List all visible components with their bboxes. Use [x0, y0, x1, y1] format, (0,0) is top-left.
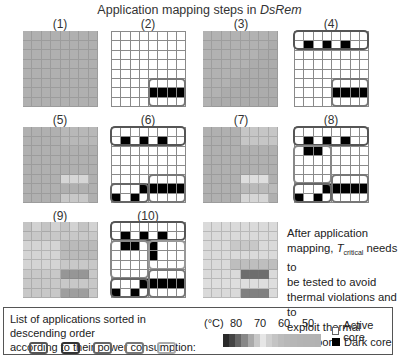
active-core — [149, 60, 158, 69]
thermal-grid — [203, 31, 278, 107]
thermal-cell — [259, 279, 268, 289]
thermal-cell — [212, 60, 221, 70]
active-core — [341, 70, 350, 79]
active-core — [295, 147, 304, 156]
thermal-cell — [70, 156, 79, 166]
thermal-cell — [42, 137, 51, 147]
active-core — [149, 223, 158, 232]
active-core — [158, 70, 167, 79]
thermal-cell — [32, 79, 41, 89]
dark-core — [351, 184, 360, 193]
active-core — [323, 175, 332, 184]
thermal-cell — [250, 127, 259, 137]
thermal-cell — [70, 165, 79, 175]
dark-core — [149, 279, 158, 288]
thermal-cell — [32, 251, 41, 261]
thermal-cell — [269, 175, 278, 185]
thermal-cell — [241, 88, 250, 98]
tick-50: 50 — [302, 317, 326, 329]
active-core — [341, 79, 350, 88]
thermal-cell — [231, 279, 240, 289]
active-core — [158, 60, 167, 69]
core-grid — [111, 222, 186, 298]
active-core — [149, 41, 158, 50]
active-core — [112, 242, 121, 251]
thermal-cell — [203, 251, 212, 261]
active-core — [304, 175, 313, 184]
active-core — [149, 175, 158, 184]
thermal-cell — [70, 137, 79, 147]
active-core — [158, 32, 167, 41]
active-core — [323, 128, 332, 137]
active-core — [314, 166, 323, 175]
active-core — [149, 147, 158, 156]
thermal-cell — [231, 241, 240, 251]
thermal-cell — [51, 232, 60, 242]
active-core — [304, 88, 313, 97]
thermal-cell — [231, 194, 240, 204]
active-core — [304, 98, 313, 107]
thermal-cell — [212, 241, 221, 251]
thermal-cell — [241, 50, 250, 60]
thermal-cell — [32, 137, 41, 147]
thermal-cell — [23, 41, 32, 51]
thermal-cell — [241, 146, 250, 156]
thermal-cell — [203, 60, 212, 70]
thermal-cell — [79, 98, 88, 108]
thermal-cell — [23, 88, 32, 98]
thermal-cell — [222, 251, 231, 261]
thermal-cell — [79, 31, 88, 41]
active-core — [177, 175, 186, 184]
active-core — [177, 137, 186, 146]
thermal-cell — [70, 60, 79, 70]
thermal-cell — [250, 79, 259, 89]
active-core — [177, 242, 186, 251]
active-core — [177, 60, 186, 69]
active-core — [112, 137, 121, 146]
active-core — [332, 175, 341, 184]
active-core — [177, 128, 186, 137]
thermal-cell — [231, 60, 240, 70]
active-core — [131, 279, 140, 288]
thermal-cell — [241, 184, 250, 194]
thermal-cell — [89, 41, 98, 51]
thermal-cell — [61, 241, 70, 251]
thermal-cell — [79, 41, 88, 51]
dark-core — [323, 41, 332, 50]
thermal-cell — [259, 156, 268, 166]
active-core — [140, 32, 149, 41]
thermal-cell — [70, 31, 79, 41]
thermal-cell — [42, 232, 51, 242]
active-core — [168, 147, 177, 156]
active-core — [314, 184, 323, 193]
thermal-cell — [203, 270, 212, 280]
panel-label-3: (3) — [203, 17, 279, 31]
active-core — [149, 98, 158, 107]
active-core — [121, 261, 130, 270]
active-core — [177, 70, 186, 79]
thermal-cell — [32, 60, 41, 70]
thermal-cell — [231, 175, 240, 185]
thermal-cell — [250, 88, 259, 98]
thermal-cell — [89, 127, 98, 137]
active-core — [295, 60, 304, 69]
thermal-cell — [61, 279, 70, 289]
active-core — [177, 79, 186, 88]
active-core — [341, 166, 350, 175]
active-core — [341, 60, 350, 69]
active-core — [121, 194, 130, 203]
active-core — [140, 175, 149, 184]
active-core — [314, 51, 323, 60]
active-core — [168, 137, 177, 146]
active-core — [112, 270, 121, 279]
thermal-map-9 — [23, 222, 98, 298]
thermal-cell — [51, 184, 60, 194]
active-core — [140, 70, 149, 79]
active-core — [149, 261, 158, 270]
thermal-cell — [42, 146, 51, 156]
thermal-cell — [61, 260, 70, 270]
dark-core — [158, 137, 167, 146]
active-core — [112, 261, 121, 270]
thermal-cell — [61, 31, 70, 41]
thermal-cell — [259, 194, 268, 204]
